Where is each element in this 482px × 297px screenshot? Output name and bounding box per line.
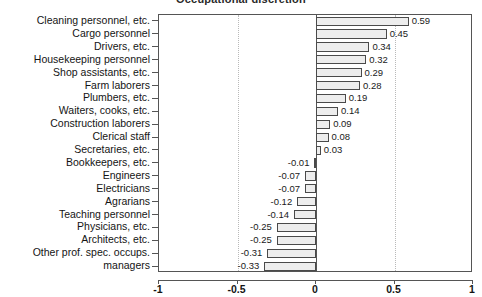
bar[interactable] (305, 171, 316, 180)
bar[interactable] (316, 146, 321, 155)
y-axis-tick (152, 20, 158, 21)
bar-value-label: 0.09 (333, 118, 352, 131)
category-label: Engineers (103, 169, 150, 182)
bar-row: 0.09 (159, 118, 471, 131)
y-axis-tick (152, 137, 158, 138)
bar[interactable] (277, 223, 316, 232)
bar[interactable] (316, 94, 346, 103)
bar[interactable] (316, 42, 369, 51)
category-label: Physicians, etc. (77, 220, 150, 233)
category-label: Construction laborers (50, 117, 150, 130)
y-axis-tick (152, 253, 158, 254)
bar[interactable] (305, 184, 316, 193)
x-axis-tick-label: -1 (153, 283, 162, 295)
category-label: Electricians (96, 182, 150, 195)
category-label: managers (103, 259, 150, 272)
bar[interactable] (314, 158, 316, 167)
category-label: Farm laborers (85, 79, 150, 92)
y-axis-tick (152, 175, 158, 176)
category-label: Cargo personnel (72, 27, 150, 40)
bar[interactable] (316, 81, 360, 90)
category-label: Clerical staff (92, 130, 150, 143)
bar[interactable] (294, 210, 316, 219)
bar[interactable] (267, 249, 316, 258)
y-axis-tick (152, 240, 158, 241)
bar-row: -0.01 (159, 157, 471, 170)
y-axis-tick (152, 111, 158, 112)
y-axis-tick (152, 201, 158, 202)
bar[interactable] (264, 262, 316, 271)
y-axis-tick (152, 188, 158, 189)
bar-value-label: 0.32 (369, 54, 388, 67)
bar[interactable] (297, 197, 316, 206)
bar[interactable] (277, 236, 316, 245)
bar-value-label: 0.29 (365, 67, 384, 80)
bar-row: 0.59 (159, 15, 471, 28)
bar-row: -0.07 (159, 183, 471, 196)
bar-value-label: 0.14 (341, 105, 360, 118)
bar-value-label: -0.01 (288, 157, 310, 170)
bar[interactable] (316, 133, 329, 142)
y-axis-tick (152, 46, 158, 47)
category-label: Housekeeping personnel (34, 53, 150, 66)
bar-row: -0.25 (159, 234, 471, 247)
plot-area: 0.590.450.340.320.290.280.190.140.090.08… (158, 14, 472, 272)
category-label: Secretaries, etc. (74, 143, 150, 156)
category-label: Other prof. spec. occups. (33, 246, 150, 259)
bar[interactable] (316, 17, 409, 26)
bar-row: 0.45 (159, 28, 471, 41)
bar-row: -0.31 (159, 247, 471, 260)
category-label: Drivers, etc. (94, 40, 150, 53)
bar[interactable] (316, 120, 330, 129)
bar-row: 0.14 (159, 105, 471, 118)
bar-row: 0.03 (159, 144, 471, 157)
bar-value-label: 0.08 (332, 131, 351, 144)
y-axis-tick (152, 149, 158, 150)
bar-value-label: -0.31 (241, 247, 263, 260)
y-axis-tick (152, 72, 158, 73)
y-axis-tick (152, 33, 158, 34)
category-label: Architects, etc. (81, 233, 150, 246)
x-axis-tick-label: 0 (312, 283, 318, 295)
bar-row: -0.07 (159, 170, 471, 183)
bar-row: -0.14 (159, 209, 471, 222)
y-axis-tick (152, 227, 158, 228)
bar-row: -0.25 (159, 221, 471, 234)
bar-row: -0.33 (159, 260, 471, 273)
bar-value-label: -0.07 (278, 183, 300, 196)
bar-value-label: 0.59 (412, 15, 431, 28)
bar[interactable] (316, 29, 387, 38)
category-label: Cleaning personnel, etc. (37, 14, 150, 27)
bar-value-label: 0.45 (390, 28, 409, 41)
bar-value-label: -0.07 (278, 170, 300, 183)
x-axis-tick-label: 0.5 (386, 283, 401, 295)
y-axis-tick (152, 124, 158, 125)
bar-value-label: -0.14 (267, 209, 289, 222)
category-label: Shop assistants, etc. (53, 66, 150, 79)
bar-row: 0.32 (159, 54, 471, 67)
chart-title: Occupational discretion (0, 0, 482, 5)
bar-value-label: -0.33 (238, 260, 260, 273)
bar-value-label: -0.25 (250, 234, 272, 247)
category-label: Teaching personnel (59, 208, 150, 221)
bar-value-label: 0.03 (324, 144, 343, 157)
y-axis-tick (152, 214, 158, 215)
bar[interactable] (316, 55, 366, 64)
bar-value-label: 0.19 (349, 92, 368, 105)
category-label: Waiters, cooks, etc. (59, 104, 150, 117)
y-axis-tick (152, 85, 158, 86)
bar-value-label: -0.25 (250, 221, 272, 234)
y-axis-tick (152, 59, 158, 60)
x-axis-tick-label: -0.5 (227, 283, 245, 295)
category-label: Bookkeepers, etc. (66, 156, 150, 169)
y-axis-tick (152, 162, 158, 163)
bar-row: 0.29 (159, 67, 471, 80)
bar[interactable] (316, 68, 362, 77)
bar[interactable] (316, 107, 338, 116)
bar-value-label: -0.12 (271, 196, 293, 209)
bar-value-label: 0.28 (363, 80, 382, 93)
y-axis-tick (152, 98, 158, 99)
bar-value-label: 0.34 (372, 41, 391, 54)
bar-row: 0.19 (159, 92, 471, 105)
bar-row: 0.08 (159, 131, 471, 144)
